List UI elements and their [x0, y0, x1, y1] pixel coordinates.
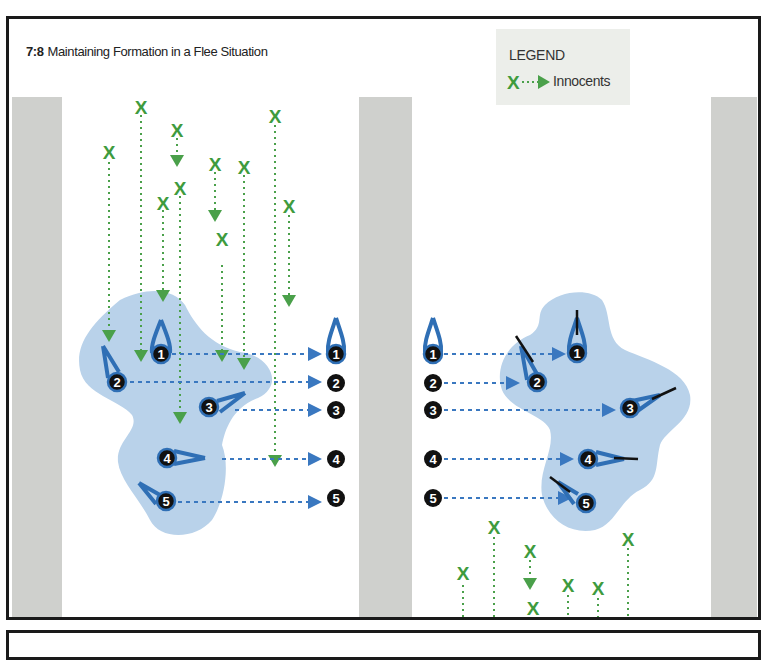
column-right — [711, 97, 757, 627]
svg-text:X: X — [622, 529, 635, 550]
marker-target-5: 5 — [327, 489, 345, 507]
marker-right-2: 2 — [528, 373, 546, 391]
x-dashed-arrow-icon: X — [506, 71, 552, 93]
legend: LEGEND X Innocents — [496, 29, 630, 105]
svg-text:3: 3 — [332, 403, 339, 418]
svg-text:X: X — [238, 157, 251, 178]
svg-text:X: X — [283, 196, 296, 217]
svg-text:1: 1 — [429, 347, 436, 362]
svg-text:X: X — [209, 154, 222, 175]
svg-text:5: 5 — [429, 491, 436, 506]
svg-text:5: 5 — [162, 494, 169, 509]
marker-target-1: 1 — [327, 345, 345, 363]
svg-text:3: 3 — [429, 403, 436, 418]
legend-label-innocents: Innocents — [553, 73, 610, 89]
svg-text:4: 4 — [332, 452, 340, 467]
innocent-x-marks-bottom: X X X X X X X X — [457, 517, 635, 631]
innocent-arrowheads-bottom — [523, 578, 537, 590]
svg-text:4: 4 — [163, 451, 171, 466]
marker-start-3: 3 — [424, 401, 442, 419]
figure-number: 7:8 — [26, 44, 44, 59]
svg-text:X: X — [171, 120, 184, 141]
svg-text:2: 2 — [533, 375, 540, 390]
svg-text:X: X — [592, 578, 605, 599]
svg-text:X: X — [174, 178, 187, 199]
svg-text:X: X — [269, 106, 282, 127]
svg-text:X: X — [510, 615, 520, 631]
svg-text:3: 3 — [205, 400, 212, 415]
svg-text:X: X — [157, 193, 170, 214]
marker-target-2: 2 — [327, 374, 345, 392]
svg-text:4: 4 — [584, 452, 592, 467]
svg-text:X: X — [216, 229, 229, 250]
marker-start-4: 4 — [424, 450, 442, 468]
svg-text:5: 5 — [332, 491, 339, 506]
svg-text:X: X — [507, 72, 520, 93]
marker-start-2: 2 — [424, 374, 442, 392]
svg-text:4: 4 — [429, 452, 437, 467]
movement-arrowheads-left — [308, 347, 322, 509]
svg-text:X: X — [135, 97, 148, 118]
marker-right-5: 5 — [577, 494, 595, 512]
marker-right-3: 3 — [621, 399, 639, 417]
formation-cluster-right — [500, 292, 691, 531]
svg-text:5: 5 — [582, 496, 589, 511]
svg-text:X: X — [562, 575, 575, 596]
marker-right-1: 1 — [568, 344, 586, 362]
innocent-x-marks-top: X X X X X X X X X X — [103, 97, 296, 250]
marker-left-1: 1 — [152, 345, 170, 363]
marker-left-3: 3 — [200, 398, 218, 416]
svg-text:1: 1 — [573, 346, 580, 361]
figure-title: 7:8Maintaining Formation in a Flee Situa… — [26, 44, 268, 59]
marker-start-5: 5 — [424, 489, 442, 507]
svg-text:2: 2 — [332, 376, 339, 391]
svg-text:X: X — [457, 563, 470, 584]
svg-text:2: 2 — [429, 376, 436, 391]
svg-text:2: 2 — [113, 375, 120, 390]
figure-title-text: Maintaining Formation in a Flee Situatio… — [48, 44, 268, 59]
legend-heading: LEGEND — [509, 47, 565, 63]
svg-text:3: 3 — [626, 401, 633, 416]
column-left — [12, 97, 62, 627]
marker-left-5: 5 — [157, 492, 175, 510]
marker-target-4: 4 — [327, 450, 345, 468]
svg-text:X: X — [103, 142, 116, 163]
marker-target-3: 3 — [327, 401, 345, 419]
marker-start-1: 1 — [424, 345, 442, 363]
column-middle — [359, 97, 412, 627]
svg-text:X: X — [527, 598, 540, 619]
svg-text:1: 1 — [157, 347, 164, 362]
svg-text:X: X — [524, 541, 537, 562]
marker-right-4: 4 — [579, 450, 597, 468]
svg-text:1: 1 — [332, 347, 339, 362]
marker-left-2: 2 — [108, 373, 126, 391]
marker-left-4: 4 — [158, 449, 176, 467]
svg-text:X: X — [488, 517, 501, 538]
